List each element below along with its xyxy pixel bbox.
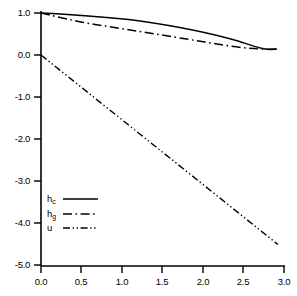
figure-container: 1.0 0.0 -1.0 -2.0 -3.0 -4.0 -5.0 0.0 0.5…	[0, 0, 297, 296]
y-tick-label-5: -3.0	[2, 175, 30, 186]
y-tick-label-6: -4.0	[2, 217, 30, 228]
x-tick-label-3: 1.0	[108, 276, 136, 287]
series-line-hc	[41, 13, 277, 49]
series-line-u	[41, 55, 278, 245]
x-tick-label-4: 1.5	[148, 276, 176, 287]
y-tick-label-4: -2.0	[2, 133, 30, 144]
legend-label-hc: hc	[47, 193, 56, 205]
x-tick-label-6: 2.5	[229, 276, 257, 287]
y-tick-label-7: -5.0	[2, 259, 30, 270]
series-line-hg	[41, 13, 277, 49]
chart-plot-area	[0, 0, 297, 296]
x-tick-label-2: 0.5	[67, 276, 95, 287]
y-tick-label-3: -1.0	[2, 91, 30, 102]
legend-label-hc-subscript: c	[52, 198, 56, 205]
legend-label-hg-subscript: g	[52, 213, 56, 220]
legend-label-u-base: u	[47, 222, 52, 233]
x-tick-label-5: 2.0	[189, 276, 217, 287]
y-axis-ticks	[34, 13, 41, 265]
legend-label-u: u	[47, 222, 52, 233]
x-tick-label-7: 3.0	[270, 276, 297, 287]
legend-label-hg: hg	[47, 208, 56, 220]
y-tick-label-2: 0.0	[2, 49, 30, 60]
x-axis-ticks	[41, 266, 284, 273]
x-tick-label-1: 0.0	[27, 276, 55, 287]
y-tick-label-1: 1.0	[2, 7, 30, 18]
